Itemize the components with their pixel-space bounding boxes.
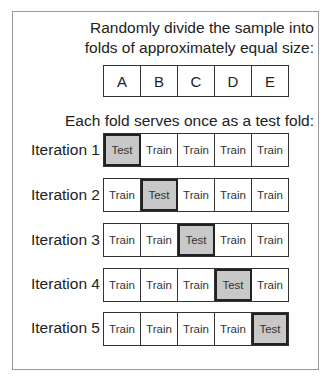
train-cell: Train: [104, 313, 141, 345]
train-cell: Train: [178, 179, 215, 211]
fold-cell-d: D: [215, 66, 252, 96]
iteration-label-4: Iteration 4: [31, 274, 100, 294]
iteration-row-4: Train Train Train Test Train: [103, 268, 289, 302]
iteration-row-3: Train Train Test Train Train: [103, 223, 289, 257]
train-cell: Train: [252, 269, 288, 301]
train-cell: Train: [215, 179, 252, 211]
train-cell: Train: [215, 224, 252, 256]
fold-grid: A B C D E: [103, 65, 289, 97]
iteration-label-1: Iteration 1: [31, 140, 100, 160]
train-cell: Train: [104, 179, 141, 211]
test-cell: Test: [252, 313, 288, 345]
fold-cell-b: B: [141, 66, 178, 96]
iteration-row-5: Train Train Train Train Test: [103, 312, 289, 346]
iteration-label-2: Iteration 2: [31, 185, 100, 205]
train-cell: Train: [178, 134, 215, 166]
test-fold-caption: Each fold serves once as a test fold:: [65, 111, 314, 131]
train-cell: Train: [141, 224, 178, 256]
iteration-label-3: Iteration 3: [31, 230, 100, 250]
test-cell: Test: [104, 134, 141, 166]
train-cell: Train: [252, 179, 288, 211]
train-cell: Train: [252, 134, 288, 166]
iteration-row-2: Train Test Train Train Train: [103, 178, 289, 212]
train-cell: Train: [215, 313, 252, 345]
intro-caption-line-1: Randomly divide the sample into: [85, 18, 314, 38]
test-cell: Test: [141, 179, 178, 211]
train-cell: Train: [178, 269, 215, 301]
fold-cell-a: A: [104, 66, 141, 96]
test-cell: Test: [178, 224, 215, 256]
intro-caption-line-2: folds of approximately equal size:: [85, 38, 314, 58]
test-cell: Test: [215, 269, 252, 301]
iteration-label-5: Iteration 5: [31, 318, 100, 338]
train-cell: Train: [104, 224, 141, 256]
iteration-row-1: Test Train Train Train Train: [103, 133, 289, 167]
train-cell: Train: [104, 269, 141, 301]
intro-caption: Randomly divide the sample into folds of…: [85, 18, 314, 58]
fold-cell-c: C: [178, 66, 215, 96]
train-cell: Train: [178, 313, 215, 345]
fold-cell-e: E: [252, 66, 288, 96]
train-cell: Train: [252, 224, 288, 256]
train-cell: Train: [141, 313, 178, 345]
train-cell: Train: [141, 134, 178, 166]
train-cell: Train: [141, 269, 178, 301]
train-cell: Train: [215, 134, 252, 166]
